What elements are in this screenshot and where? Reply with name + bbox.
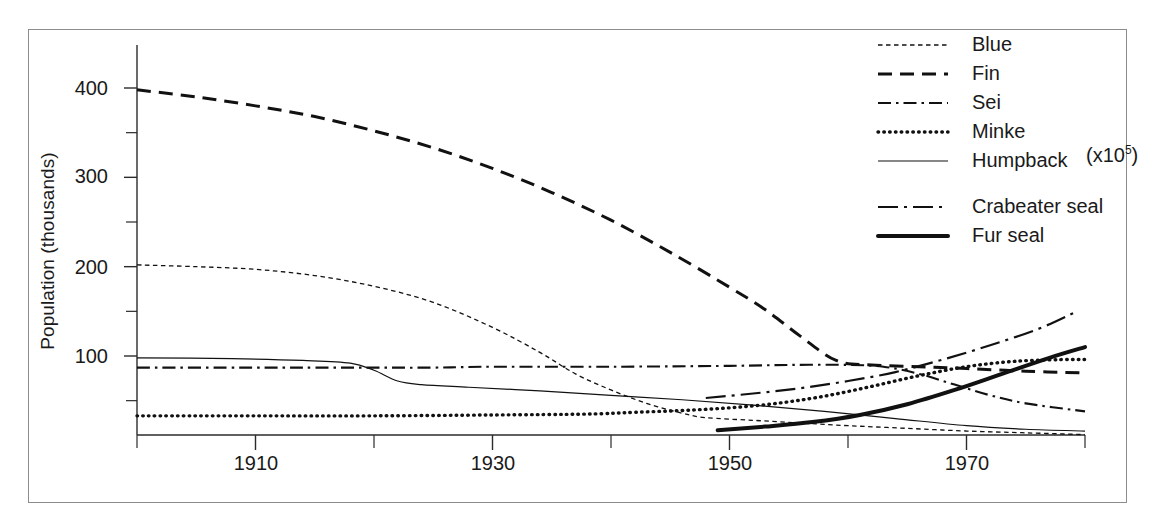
legend-item-blue[interactable]: Blue [872,30,1122,59]
annotation-suffix: ) [1132,144,1139,166]
legend-item-minke[interactable]: Minke [872,117,1122,146]
legend-swatch-dotted [872,117,958,146]
legend-swatch-thick-solid [872,221,958,250]
legend-label: Minke [972,120,1025,143]
series-line-fur-seal [718,347,1085,430]
legend-swatch-long-dash-dot [872,192,958,221]
legend-swatch-fine-dotted [872,30,958,59]
legend-label: Crabeater seal [972,195,1103,218]
whale-population-figure: Population (thousands) 400 300 200 100 1… [0,0,1155,530]
y-tick-label-100: 100 [42,345,108,368]
annotation-exponent: 5 [1125,143,1132,157]
y-tick-label-200: 200 [42,256,108,279]
legend-swatch-thin-solid [872,146,958,175]
legend-label: Fur seal [972,224,1044,247]
chart-legend: BlueFinSeiMinkeHumpbackCrabeater sealFur… [872,30,1122,250]
x-tick-label-1950: 1950 [685,452,775,475]
legend-label: Humpback [972,149,1068,172]
x-tick-label-1970: 1970 [922,452,1012,475]
series-line-blue [137,265,1085,435]
legend-swatch-dash-dot [872,88,958,117]
legend-label: Sei [972,91,1001,114]
legend-item-fin[interactable]: Fin [872,59,1122,88]
series-line-sei [137,365,1085,412]
legend-label: Blue [972,33,1012,56]
y-tick-label-400: 400 [42,77,108,100]
legend-separator [872,175,1122,192]
series-line-crabeater-seal [706,313,1073,398]
x-tick-label-1930: 1930 [448,452,538,475]
legend-item-crabeater-seal[interactable]: Crabeater seal [872,192,1122,221]
legend-item-sei[interactable]: Sei [872,88,1122,117]
legend-item-fur-seal[interactable]: Fur seal [872,221,1122,250]
x-tick-label-1910: 1910 [211,452,301,475]
y-tick-label-300: 300 [42,165,108,188]
legend-item-humpback[interactable]: Humpback [872,146,1122,175]
y-axis-title: Population (thousands) [37,126,59,376]
legend-swatch-long-dashed [872,59,958,88]
legend-label: Fin [972,62,1000,85]
